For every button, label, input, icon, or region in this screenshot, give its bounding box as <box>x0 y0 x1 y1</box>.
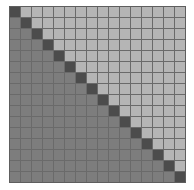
matrix-cell-lower <box>120 139 130 149</box>
matrix-cell-upper <box>120 106 130 116</box>
matrix-cell-lower <box>32 51 42 61</box>
matrix-cell-lower <box>98 139 108 149</box>
matrix-cell-diagonal <box>32 29 42 39</box>
matrix-cell-upper <box>109 84 119 94</box>
matrix-cell-upper <box>175 73 185 83</box>
matrix-cell-lower <box>98 106 108 116</box>
matrix-cell-lower <box>32 106 42 116</box>
matrix-cell-lower <box>10 95 20 105</box>
matrix-cell-lower <box>10 128 20 138</box>
matrix-cell-upper <box>120 51 130 61</box>
matrix-cell-upper <box>164 106 174 116</box>
matrix-cell-lower <box>65 128 75 138</box>
matrix-cell-diagonal <box>10 7 20 17</box>
matrix-cell-upper <box>65 51 75 61</box>
matrix-cell-lower <box>21 117 31 127</box>
matrix-cell-upper <box>175 150 185 160</box>
matrix-cell-upper <box>87 40 97 50</box>
matrix-cell-upper <box>131 117 141 127</box>
matrix-cell-lower <box>10 51 20 61</box>
matrix-cell-diagonal <box>175 172 185 182</box>
matrix-cell-diagonal <box>76 73 86 83</box>
matrix-cell-lower <box>76 150 86 160</box>
matrix-cell-upper <box>175 117 185 127</box>
matrix-cell-upper <box>164 150 174 160</box>
matrix-cell-upper <box>98 51 108 61</box>
matrix-cell-upper <box>142 106 152 116</box>
matrix-cell-lower <box>43 62 53 72</box>
matrix-cell-upper <box>142 62 152 72</box>
matrix-cell-upper <box>109 95 119 105</box>
matrix-cell-upper <box>98 29 108 39</box>
matrix-cell-lower <box>21 128 31 138</box>
matrix-cell-diagonal <box>164 161 174 171</box>
matrix-cell-lower <box>65 150 75 160</box>
matrix-cell-lower <box>65 172 75 182</box>
matrix-cell-lower <box>21 139 31 149</box>
matrix-cell-lower <box>65 161 75 171</box>
matrix-cell-lower <box>21 106 31 116</box>
matrix-cell-upper <box>142 51 152 61</box>
matrix-cell-lower <box>54 62 64 72</box>
matrix-cell-upper <box>175 7 185 17</box>
matrix-cell-lower <box>32 84 42 94</box>
matrix-cell-upper <box>98 7 108 17</box>
matrix-cell-upper <box>131 7 141 17</box>
matrix-cell-lower <box>65 106 75 116</box>
matrix-cell-lower <box>43 161 53 171</box>
matrix-cell-upper <box>175 106 185 116</box>
matrix-cell-upper <box>120 95 130 105</box>
matrix-cell-upper <box>54 40 64 50</box>
matrix-cell-lower <box>32 150 42 160</box>
matrix-cell-upper <box>87 7 97 17</box>
matrix-cell-lower <box>87 139 97 149</box>
matrix-cell-lower <box>21 40 31 50</box>
matrix-cell-lower <box>32 128 42 138</box>
matrix-cell-lower <box>76 84 86 94</box>
matrix-cell-upper <box>54 18 64 28</box>
matrix-cell-upper <box>131 62 141 72</box>
matrix-cell-upper <box>153 51 163 61</box>
matrix-cell-upper <box>142 40 152 50</box>
matrix-cell-upper <box>164 51 174 61</box>
matrix-cell-upper <box>120 29 130 39</box>
matrix-cell-lower <box>54 161 64 171</box>
matrix-cell-lower <box>76 172 86 182</box>
matrix-cell-lower <box>76 161 86 171</box>
matrix-cell-lower <box>32 73 42 83</box>
matrix-cell-upper <box>142 18 152 28</box>
matrix-cell-lower <box>87 128 97 138</box>
matrix-cell-lower <box>87 95 97 105</box>
matrix-cell-lower <box>65 139 75 149</box>
matrix-cell-upper <box>142 29 152 39</box>
matrix-cell-lower <box>10 73 20 83</box>
matrix-cell-lower <box>142 172 152 182</box>
matrix-cell-upper <box>175 40 185 50</box>
matrix-cell-upper <box>153 7 163 17</box>
matrix-cell-lower <box>10 150 20 160</box>
matrix-cell-lower <box>65 73 75 83</box>
matrix-cell-lower <box>10 62 20 72</box>
matrix-cell-lower <box>32 161 42 171</box>
matrix-cell-diagonal <box>65 62 75 72</box>
matrix-cell-lower <box>87 150 97 160</box>
matrix-cell-lower <box>21 161 31 171</box>
matrix-cell-lower <box>98 150 108 160</box>
matrix-cell-lower <box>76 128 86 138</box>
matrix-cell-upper <box>109 18 119 28</box>
matrix-cell-upper <box>153 29 163 39</box>
matrix-cell-upper <box>131 40 141 50</box>
matrix-cell-lower <box>21 95 31 105</box>
matrix-cell-upper <box>76 29 86 39</box>
matrix-cell-lower <box>153 172 163 182</box>
matrix-cell-lower <box>10 117 20 127</box>
matrix-cell-lower <box>164 172 174 182</box>
matrix-cell-lower <box>43 95 53 105</box>
matrix-cell-upper <box>153 18 163 28</box>
matrix-cell-diagonal <box>21 18 31 28</box>
matrix-cell-lower <box>131 139 141 149</box>
matrix-cell-lower <box>76 117 86 127</box>
matrix-cell-upper <box>54 29 64 39</box>
matrix-cell-upper <box>142 73 152 83</box>
matrix-cell-lower <box>109 172 119 182</box>
